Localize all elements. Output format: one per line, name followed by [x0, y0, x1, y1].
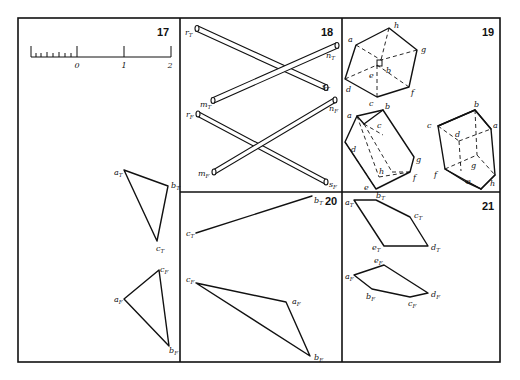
sheet-frame [18, 18, 500, 362]
label-f-f: f [412, 173, 418, 182]
panel-number: 21 [482, 200, 494, 212]
cube-top-view [345, 28, 417, 97]
label-r-f: rF [186, 110, 194, 120]
scale-label-2: 2 [166, 61, 172, 70]
panel-21: 21 aT bT cT dT eT eF aF bF cF dF [345, 191, 494, 309]
label-g-r: g [471, 161, 476, 170]
label-r-t: rT [185, 28, 193, 38]
label-e-t: eT [372, 243, 381, 253]
scale-label-0: 0 [74, 61, 79, 70]
rod-mn-front [213, 98, 336, 174]
panel-17: 17 0 1 2 aT bT cT aF bF cF [31, 26, 180, 356]
panel-18: 18 rT nT sT mT rF nF sF mF [185, 26, 339, 191]
label-b-f: bF [314, 353, 323, 363]
label-b-r: b [474, 100, 479, 109]
label-a-t: a [348, 35, 353, 44]
label-h-r: h [490, 179, 495, 188]
label-c-f: cF [160, 265, 168, 275]
pentagon-top-view [354, 200, 428, 246]
label-d-f: dF [431, 290, 440, 300]
label-c-f: cF [186, 275, 194, 285]
label-e-f: eF [374, 256, 383, 266]
label-a-r: a [493, 121, 498, 130]
label-b-f: bF [169, 346, 178, 356]
graphic-scale: 0 1 2 [31, 46, 173, 70]
label-a-f: aF [114, 295, 123, 305]
rod-mn-top [212, 43, 338, 103]
triangle-front-view [196, 283, 310, 356]
label-n-f: nF [329, 104, 338, 114]
label-m-t: mT [200, 100, 212, 110]
label-s-f: sF [329, 180, 337, 190]
label-c-t: cT [186, 229, 194, 239]
label-e-t: e [369, 71, 374, 80]
label-b-t: b [386, 66, 391, 75]
rods-front-view [196, 97, 337, 185]
label-d-t: dT [431, 243, 440, 253]
label-h-t: h [394, 21, 399, 30]
label-a-f: a [347, 111, 352, 120]
label-e-r: e [466, 177, 471, 186]
label-s-t: sT [322, 82, 330, 92]
label-c-t: cT [414, 211, 422, 221]
label-c-t: cT [156, 244, 164, 254]
label-a-f: aF [292, 297, 301, 307]
label-d-r: d [455, 130, 460, 139]
label-a-f: aF [345, 272, 354, 282]
label-n-t: nT [326, 51, 335, 61]
label-g-f: g [416, 155, 421, 164]
rods-top-view [195, 26, 339, 104]
problem-sheet: 17 0 1 2 aT bT cT aF bF cF 18 [0, 0, 520, 380]
label-c-f: cF [408, 299, 416, 309]
panel-19: 19 a h g b e d c f [345, 21, 498, 192]
label-g-t: g [421, 45, 426, 54]
label-f-t: f [410, 88, 416, 97]
label-a-t: aT [345, 198, 354, 208]
panel-number: 20 [325, 195, 337, 207]
label-b-f: bF [366, 292, 375, 302]
label-h-f: h [379, 167, 384, 176]
label-c-r: c [427, 121, 432, 130]
label-e-f: e [364, 183, 369, 192]
label-c-f: c [377, 121, 382, 130]
outer-border [18, 18, 500, 362]
label-d-f: d [351, 145, 356, 154]
triangle-front-view [124, 270, 169, 346]
label-b-t: bT [171, 181, 180, 191]
label-m-f: mF [198, 169, 210, 179]
panel-number: 17 [157, 26, 169, 38]
label-c-t: c [369, 99, 374, 108]
line-top-view [196, 196, 312, 233]
scale-label-1: 1 [121, 61, 126, 70]
label-a-t: aT [114, 168, 123, 178]
label-b-t: bT [314, 196, 323, 206]
panel-20: 20 bT cT cF aF bF [186, 195, 337, 363]
label-f-r: f [433, 170, 439, 179]
panel-number: 19 [482, 26, 494, 38]
panel-number: 18 [321, 26, 333, 38]
triangle-top-view [124, 170, 168, 241]
label-d-t: d [346, 85, 351, 94]
label-b-f: b [385, 102, 390, 111]
